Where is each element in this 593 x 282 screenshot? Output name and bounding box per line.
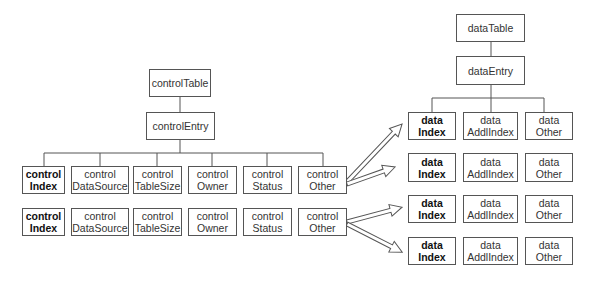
node-label-line1: data [421, 156, 443, 168]
node-label-line2: Other [536, 168, 562, 180]
node-label-line2: Other [536, 126, 562, 138]
arrow-4 [344, 219, 405, 258]
data-entry-node: dataEntry [456, 56, 525, 85]
node-label-line1: control [197, 168, 229, 180]
node-label-line2: TableSize [135, 222, 181, 234]
data-addlindex-node: data AddlIndex [463, 112, 518, 140]
node-label-line1: data [480, 156, 500, 168]
node-label-line2: Other [309, 180, 335, 192]
diagram-canvas: controlTable controlEntry control Index … [0, 0, 593, 282]
node-label-line2: Index [30, 180, 57, 192]
node-label-line2: Index [30, 222, 57, 234]
data-other-node: data Other [525, 112, 573, 140]
data-index-node: data Index [408, 153, 456, 182]
node-label-line1: data [539, 197, 559, 209]
control-index-node: control Index [22, 166, 65, 194]
node-label-line2: Index [418, 209, 445, 221]
node-label-line2: DataSource [72, 222, 127, 234]
node-label-line1: data [539, 239, 559, 251]
node-label-line2: Index [418, 251, 445, 263]
node-label-line1: data [421, 114, 443, 126]
control-other-node: control Other [298, 208, 347, 236]
node-label: dataTable [468, 22, 514, 34]
node-label-line1: control [142, 168, 174, 180]
data-index-node: data Index [408, 237, 456, 265]
node-label-line1: control [26, 168, 62, 180]
data-other-node: data Other [525, 195, 573, 223]
node-label-line2: Other [309, 222, 335, 234]
node-label-line2: TableSize [135, 180, 181, 192]
control-owner-node: control Owner [188, 166, 237, 194]
node-label-line2: Other [536, 209, 562, 221]
data-table-node: dataTable [456, 14, 525, 42]
node-label-line1: control [197, 210, 229, 222]
node-label-line1: data [480, 114, 500, 126]
node-label-line1: data [421, 197, 443, 209]
node-label-line2: Index [418, 168, 445, 180]
node-label-line2: Owner [197, 180, 228, 192]
node-label-line1: control [252, 210, 284, 222]
node-label-line1: control [26, 210, 62, 222]
control-tablesize-node: control TableSize [133, 166, 182, 194]
node-label-line1: control [307, 210, 339, 222]
control-status-node: control Status [243, 166, 292, 194]
node-label-line2: Status [253, 222, 283, 234]
control-status-node: control Status [243, 208, 292, 236]
arrow-3 [345, 201, 403, 227]
node-label-line1: data [480, 197, 500, 209]
control-datasource-node: control DataSource [71, 166, 129, 194]
node-label: dataEntry [468, 65, 513, 77]
node-label-line1: control [142, 210, 174, 222]
control-entry-node: controlEntry [146, 112, 215, 140]
node-label: controlTable [152, 77, 209, 89]
data-other-node: data Other [525, 237, 573, 265]
data-index-node: data Index [408, 112, 456, 140]
node-label-line2: Status [253, 180, 283, 192]
node-label-line1: control [84, 168, 116, 180]
control-owner-node: control Owner [188, 208, 237, 236]
node-label-line2: AddlIndex [467, 251, 514, 263]
node-label-line1: control [307, 168, 339, 180]
node-label-line2: Owner [197, 222, 228, 234]
data-addlindex-node: data AddlIndex [463, 153, 518, 182]
node-label-line1: data [421, 239, 443, 251]
node-label-line1: control [84, 210, 116, 222]
node-label-line2: Index [418, 126, 445, 138]
node-label-line1: control [252, 168, 284, 180]
node-label-line2: DataSource [72, 180, 127, 192]
data-other-node: data Other [525, 153, 573, 182]
control-table-node: controlTable [149, 69, 211, 97]
control-index-node: control Index [22, 208, 65, 236]
node-label: controlEntry [152, 120, 208, 132]
node-label-line2: AddlIndex [467, 126, 514, 138]
control-tablesize-node: control TableSize [133, 208, 182, 236]
node-label-line2: AddlIndex [467, 168, 514, 180]
data-addlindex-node: data AddlIndex [463, 195, 518, 223]
node-label-line2: AddlIndex [467, 209, 514, 221]
node-label-line1: data [539, 156, 559, 168]
arrows [343, 120, 407, 258]
control-other-node: control Other [298, 166, 347, 194]
control-datasource-node: control DataSource [71, 208, 129, 236]
data-addlindex-node: data AddlIndex [463, 237, 518, 265]
node-label-line1: data [539, 114, 559, 126]
data-index-node: data Index [408, 195, 456, 223]
node-label-line1: data [480, 239, 500, 251]
node-label-line2: Other [536, 251, 562, 263]
